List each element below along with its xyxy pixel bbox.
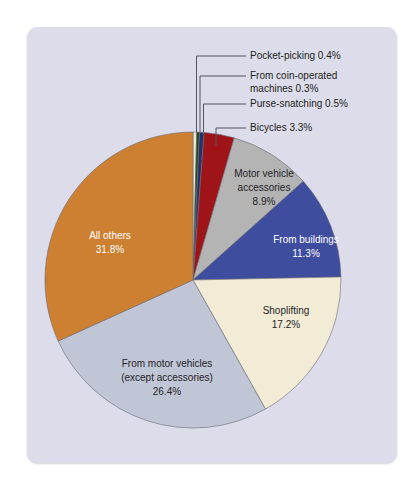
callout-purse-snatching-text: Purse-snatching 0.5% [250,98,348,109]
label-all-others-line2: 31.8% [96,244,124,255]
figure-root: Pocket-picking 0.4% From coin-operated m… [0,0,420,486]
label-all-others-line1: All others [89,230,131,241]
label-from-buildings-line1: From buildings [273,234,339,245]
pie-chart: Pocket-picking 0.4% From coin-operated m… [0,0,420,486]
callout-pocket-picking-text: Pocket-picking 0.4% [250,50,341,61]
label-from-motor-vehicles-line2: (except accessories) [121,372,213,383]
label-motor-vehicle-accessories-line2: accessories [238,182,291,193]
callout-coin-operated-text-line1: From coin-operated [250,70,337,81]
label-from-buildings-line2: 11.3% [292,248,320,259]
label-motor-vehicle-accessories-line3: 8.9% [253,196,276,207]
label-from-motor-vehicles-line3: 26.4% [153,386,181,397]
label-shoplifting-line2: 17.2% [272,319,300,330]
label-shoplifting-line1: Shoplifting [263,305,310,316]
callout-labels: Pocket-picking 0.4% From coin-operated m… [250,50,348,133]
label-motor-vehicle-accessories-line1: Motor vehicle [234,168,294,179]
label-from-motor-vehicles-line1: From motor vehicles [122,358,213,369]
callout-coin-operated-text-line2: machines 0.3% [250,83,318,94]
pie-slice-group [45,132,341,428]
callout-bicycles-text: Bicycles 3.3% [250,122,312,133]
